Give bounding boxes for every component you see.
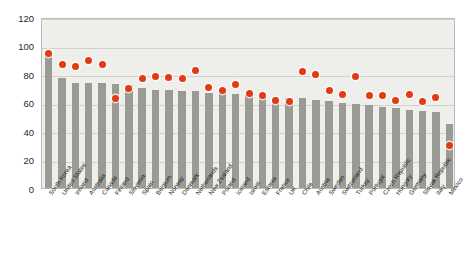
data-point-marker xyxy=(125,85,132,92)
data-point-marker xyxy=(272,97,279,104)
data-point-marker xyxy=(259,92,266,99)
data-point-marker xyxy=(179,75,186,82)
y-axis-tick-120: 120 xyxy=(0,14,34,23)
data-point-marker xyxy=(99,61,106,68)
data-point-marker xyxy=(205,84,212,91)
y-axis-tick-20: 20 xyxy=(0,156,34,165)
y-axis-tick-100: 100 xyxy=(0,42,34,51)
plot-area xyxy=(41,18,455,189)
data-point-marker xyxy=(72,63,79,70)
data-point-marker xyxy=(339,91,346,98)
data-point-marker xyxy=(432,94,439,101)
data-point-marker xyxy=(446,142,453,149)
data-point-marker xyxy=(59,61,66,68)
data-point-marker xyxy=(419,98,426,105)
data-point-marker xyxy=(366,92,373,99)
data-point-marker xyxy=(286,98,293,105)
chart-container: 020406080100120 South KoreaUnited States… xyxy=(0,0,474,256)
y-axis-tick-80: 80 xyxy=(0,71,34,80)
data-point-marker xyxy=(219,87,226,94)
y-axis-tick-40: 40 xyxy=(0,128,34,137)
data-point-marker xyxy=(326,87,333,94)
data-point-marker xyxy=(379,92,386,99)
data-point-marker xyxy=(165,74,172,81)
dot-series xyxy=(42,19,454,188)
data-point-marker xyxy=(112,95,119,102)
data-point-marker xyxy=(139,75,146,82)
data-point-marker xyxy=(352,73,359,80)
data-point-marker xyxy=(392,97,399,104)
data-point-marker xyxy=(312,71,319,78)
data-point-marker xyxy=(246,90,253,97)
data-point-marker xyxy=(45,50,52,57)
data-point-marker xyxy=(85,57,92,64)
data-point-marker xyxy=(192,67,199,74)
data-point-marker xyxy=(299,68,306,75)
data-point-marker xyxy=(152,73,159,80)
data-point-marker xyxy=(406,91,413,98)
y-axis-tick-0: 0 xyxy=(0,185,34,194)
y-axis-tick-60: 60 xyxy=(0,99,34,108)
data-point-marker xyxy=(232,81,239,88)
